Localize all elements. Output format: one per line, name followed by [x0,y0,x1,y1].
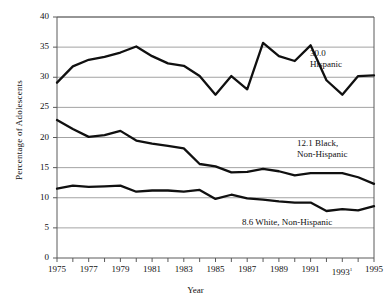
x-axis-title: Year [0,285,391,295]
chart-container: Percentage of Adolescents 05101520253035… [0,0,391,304]
annotation-white-line1: 8.6 White, Non-Hispanic [242,217,332,228]
series-annotation-white: 8.6 White, Non-Hispanic [242,217,332,228]
series-annotation-black: 12.1 Black, Non-Hispanic [297,138,348,160]
series-annotation-hispanic: 30.0 Hispanic [310,48,342,70]
annotation-black-line1: 12.1 Black, [297,138,348,149]
annotation-hispanic-line1: 30.0 [310,48,342,59]
annotation-black-line2: Non-Hispanic [297,149,348,160]
annotation-hispanic-line2: Hispanic [310,59,342,70]
series-line-white-non-hispanic [57,186,374,211]
